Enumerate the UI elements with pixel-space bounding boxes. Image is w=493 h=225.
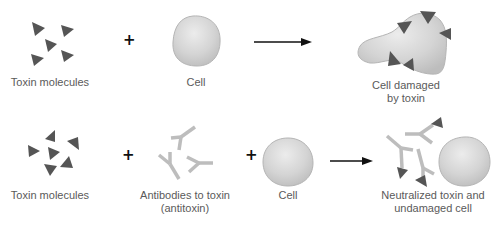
label-cell-damaged-line1: Cell damaged (366, 79, 446, 92)
label-toxin-molecules: Toxin molecules (10, 76, 90, 89)
label-neutralized-line1: Neutralized toxin and (378, 189, 488, 202)
cell-icon (263, 138, 313, 186)
row1-arrow (254, 38, 312, 46)
label-cell: Cell (176, 76, 216, 89)
label-cell: Cell (268, 189, 308, 202)
undamaged-cell-icon (439, 137, 490, 186)
antibody-y-icon (387, 136, 413, 168)
plus-sign: + (245, 148, 258, 163)
toxin-triangle-icon (44, 164, 57, 176)
toxin-triangle-icon (31, 54, 44, 66)
row1-damaged-cell (358, 11, 451, 74)
arrow-head-icon (301, 38, 312, 46)
antibody-y-icon (405, 125, 433, 143)
cell-icon (173, 16, 220, 66)
row2-antibodies (159, 127, 213, 179)
antibody-y-icon (418, 149, 434, 180)
antibody-y-icon (187, 157, 213, 172)
row2-arrow (330, 157, 373, 165)
toxin-triangle-icon (45, 39, 57, 52)
arrow-head-icon (362, 157, 373, 165)
toxin-triangle-icon (415, 175, 427, 187)
row2-toxin-molecules (28, 130, 79, 176)
label-neutralized-line2: undamaged cell (378, 202, 488, 215)
toxin-triangle-icon (32, 22, 45, 36)
label-toxin-molecules: Toxin molecules (10, 189, 90, 202)
toxin-triangle-icon (45, 130, 55, 142)
row1-cell (173, 16, 220, 66)
row2-neutralized-complex (387, 117, 490, 187)
toxin-triangle-icon (48, 147, 60, 160)
row1-toxin-molecules (31, 22, 74, 66)
damaged-cell-icon (358, 13, 446, 74)
label-antibodies-line1: Antibodies to toxin (135, 189, 235, 202)
label-cell-damaged-line2: by toxin (366, 92, 446, 105)
antibody-y-icon (171, 127, 195, 150)
row2-cell (263, 138, 313, 186)
toxin-triangle-icon (60, 156, 73, 168)
toxin-triangle-icon (61, 25, 74, 37)
toxin-triangle-icon (67, 137, 79, 150)
toxin-triangle-icon (28, 145, 40, 157)
plus-sign: + (123, 33, 136, 48)
toxin-triangle-icon (397, 167, 408, 179)
antibody-y-icon (159, 152, 179, 179)
plus-sign: + (122, 148, 135, 163)
toxin-triangle-icon (61, 50, 74, 62)
label-antibodies-line2: (antitoxin) (135, 202, 235, 215)
